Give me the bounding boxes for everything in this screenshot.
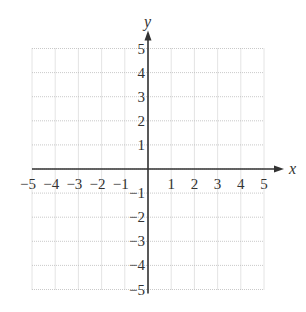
coordinate-plane: −5−4−3−2−112345 −5−4−3−2−112345 x y	[0, 0, 306, 312]
y-tick-label: −4	[129, 257, 145, 273]
x-tick-label: 4	[237, 176, 245, 192]
axes	[32, 31, 284, 294]
x-tick-label: −1	[113, 176, 129, 192]
x-tick-label: −4	[43, 176, 59, 192]
y-tick-label: 2	[138, 113, 146, 129]
x-tick-label: 2	[191, 176, 199, 192]
y-tick-label: 5	[138, 41, 146, 57]
x-tick-label: 3	[214, 176, 222, 192]
y-tick-label: 1	[138, 137, 146, 153]
y-tick-label: 3	[138, 89, 146, 105]
x-axis-label: x	[288, 160, 296, 177]
y-tick-label: −1	[129, 185, 145, 201]
y-tick-label: −5	[129, 282, 145, 298]
x-axis-arrow-icon	[274, 166, 284, 173]
y-axis-arrow-icon	[145, 31, 152, 41]
x-tick-label: −2	[90, 176, 106, 192]
y-tick-label: 4	[138, 65, 146, 81]
y-tick-label: −3	[129, 233, 145, 249]
x-tick-label: −5	[20, 176, 36, 192]
y-axis-label: y	[142, 13, 152, 31]
x-tick-label: −3	[66, 176, 82, 192]
x-tick-label: 5	[260, 176, 268, 192]
x-tick-label: 1	[167, 176, 175, 192]
y-tick-label: −2	[129, 209, 145, 225]
